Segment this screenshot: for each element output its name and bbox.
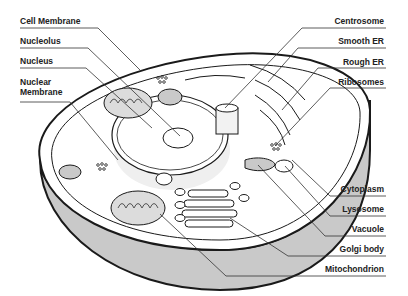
mitochondrion-top — [104, 88, 152, 118]
label-vacuole: Vacuole — [352, 224, 384, 234]
label-nuclear-membrane-line2: Membrane — [20, 87, 63, 97]
label-cell-membrane: Cell Membrane — [20, 16, 80, 26]
label-nucleus: Nucleus — [20, 56, 53, 66]
label-smooth-er: Smooth ER — [338, 36, 384, 46]
label-rough-er: Rough ER — [343, 57, 384, 67]
label-nuclear-membrane-line1: Nuclear — [20, 77, 63, 87]
label-mitochondrion: Mitochondrion — [325, 264, 384, 274]
label-golgi-body: Golgi body — [340, 244, 384, 254]
label-ribosomes: Ribosomes — [338, 77, 384, 87]
label-cytoplasm: Cytoplasm — [341, 184, 384, 194]
label-nucleolus: Nucleolus — [20, 36, 61, 46]
label-nuclear-membrane: Nuclear Membrane — [20, 77, 63, 97]
mitochondrion-bottom — [111, 191, 165, 225]
label-centrosome: Centrosome — [334, 16, 384, 26]
lysosome — [275, 160, 293, 172]
nucleolus — [163, 128, 193, 148]
vacuole — [245, 158, 275, 171]
label-lysosome: Lysosome — [342, 204, 384, 214]
